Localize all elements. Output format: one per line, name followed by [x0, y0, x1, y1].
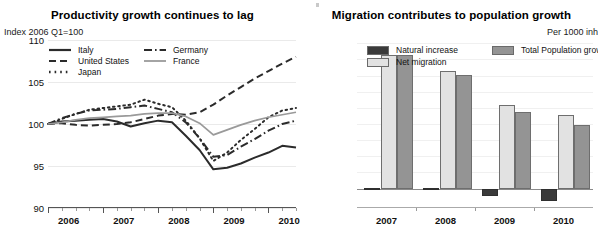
x-axis-minor-tick: [131, 208, 132, 211]
bar-net-migration-2009: [499, 105, 515, 189]
screenshot-root: Productivity growth continues to lag Ind…: [0, 0, 598, 244]
y-axis-tick-label: 100: [28, 119, 44, 130]
x-axis-tick-label: 2006: [58, 215, 79, 226]
bar-natural-increase-2007: [364, 188, 380, 190]
swatch-net-migration-icon: [367, 58, 389, 67]
zero-axis-line: [357, 189, 593, 190]
productivity-legend: Italy Germany United States: [48, 44, 238, 77]
bar-total-population-growth-2007: [397, 55, 413, 188]
x-axis-minor-tick: [416, 208, 417, 211]
legend-item-net-migration: Net migration: [367, 57, 492, 67]
x-axis-minor-tick: [255, 208, 256, 211]
line-style-dashdot-icon: [143, 45, 167, 55]
line-style-solid-icon: [48, 45, 72, 55]
legend-item-natural-increase: Natural increase: [367, 45, 492, 55]
bar-net-migration-2007: [381, 55, 397, 189]
productivity-chart-title: Productivity growth continues to lag: [0, 9, 305, 21]
migration-axis-note: Per 1000 inh: [547, 27, 598, 37]
bar-net-migration-2010: [558, 115, 574, 189]
legend-row: Net migration: [367, 56, 598, 68]
legend-row: Japan: [48, 66, 238, 77]
x-axis-tick-label: 2008: [435, 215, 456, 226]
legend-row: United States France: [48, 55, 238, 66]
x-axis-minor-tick: [282, 208, 283, 211]
migration-chart-panel: Migration contributes to population grow…: [305, 0, 598, 244]
x-axis-line: [357, 207, 593, 208]
migration-chart-title: Migration contributes to population grow…: [305, 9, 598, 21]
x-axis-minor-tick: [62, 208, 63, 211]
x-axis-minor-tick: [227, 208, 228, 211]
swatch-natural-increase-icon: [367, 46, 389, 55]
line-style-solid-gray-icon: [143, 56, 167, 66]
legend-row: Italy Germany: [48, 44, 238, 55]
x-axis-minor-tick: [475, 208, 476, 211]
x-axis-minor-tick: [76, 208, 77, 211]
y-axis-tick-label: 90: [33, 203, 44, 214]
line-style-dashed-icon: [48, 56, 72, 66]
x-axis-minor-tick: [144, 208, 145, 211]
x-axis-tick-label: 2007: [376, 215, 397, 226]
legend-item-france: France: [143, 56, 238, 66]
x-axis-major-tick: [213, 208, 214, 213]
bar-natural-increase-2009: [482, 189, 498, 196]
legend-row: Natural increase Total Population growth: [367, 44, 598, 56]
x-axis-minor-tick: [186, 208, 187, 211]
legend-item-germany: Germany: [143, 45, 238, 55]
legend-label-total-population-growth: Total Population growth: [521, 45, 598, 55]
legend-label-japan: Japan: [78, 67, 101, 77]
x-axis-minor-tick: [89, 208, 90, 211]
line-style-dotted-icon: [48, 67, 72, 77]
x-axis-tick-label: 2007: [113, 215, 134, 226]
x-axis-minor-tick: [200, 208, 201, 211]
x-axis-tick-label: 2009: [223, 215, 244, 226]
legend-item-united-states: United States: [48, 56, 143, 66]
legend-item-japan: Japan: [48, 67, 144, 77]
bar-net-migration-2008: [440, 71, 456, 189]
x-axis-major-tick: [48, 208, 49, 213]
legend-label-france: France: [173, 56, 199, 66]
bar-total-population-growth-2010: [574, 125, 590, 189]
y-axis-tick-label: 110: [29, 35, 44, 46]
swatch-total-growth-icon: [492, 46, 514, 55]
x-axis-minor-tick: [534, 208, 535, 211]
y-axis-tick-label: 95: [33, 161, 44, 172]
y-axis-tick-label: 105: [28, 77, 44, 88]
productivity-chart-panel: Productivity growth continues to lag Ind…: [0, 0, 305, 244]
x-axis-major-tick: [103, 208, 104, 213]
legend-label-germany: Germany: [173, 45, 208, 55]
x-axis-tick-label: 2010: [553, 215, 574, 226]
bar-total-population-growth-2008: [456, 75, 472, 189]
x-axis-minor-tick: [172, 208, 173, 211]
x-axis-tick-label: 2008: [168, 215, 189, 226]
x-axis-minor-tick: [296, 208, 297, 211]
x-axis-tick-label: 2010: [279, 215, 300, 226]
legend-label-net-migration: Net migration: [396, 57, 447, 67]
bar-natural-increase-2010: [541, 189, 557, 201]
legend-label-united-states: United States: [78, 56, 129, 66]
legend-item-total-population-growth: Total Population growth: [492, 45, 598, 55]
legend-label-italy: Italy: [78, 45, 94, 55]
migration-legend: Natural increase Total Population growth…: [367, 44, 598, 68]
legend-label-natural-increase: Natural increase: [396, 45, 458, 55]
line-series-japan: [48, 100, 296, 161]
x-axis-minor-tick: [241, 208, 242, 211]
x-axis-minor-tick: [117, 208, 118, 211]
legend-item-italy: Italy: [48, 45, 143, 55]
x-axis-major-tick: [268, 208, 269, 213]
bar-total-population-growth-2009: [515, 112, 531, 189]
x-axis-tick-label: 2009: [494, 215, 515, 226]
line-series-italy: [48, 119, 296, 169]
bar-natural-increase-2008: [423, 188, 439, 190]
x-axis-major-tick: [158, 208, 159, 213]
